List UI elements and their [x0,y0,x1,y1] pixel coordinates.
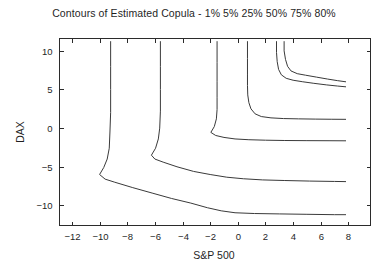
contour-line-5pct [151,42,345,182]
contour-line-25pct [211,42,346,141]
x-tick-label: 4 [291,231,296,242]
x-axis-ticks [73,39,349,226]
contour-line-80pct [284,42,346,82]
y-axis-ticks [60,52,371,206]
x-tick-label: 8 [346,231,351,242]
x-tick-label: −6 [150,231,161,242]
y-tick-label: 5 [47,84,52,95]
axes-rectangle [60,39,371,226]
x-axis-tick-labels: −12−10−8−6−4−202468 [64,231,351,242]
x-tick-label: 2 [263,231,268,242]
contour-lines [100,42,346,215]
x-tick-label: −2 [205,231,216,242]
x-tick-label: 0 [236,231,241,242]
y-axis-tick-labels: 1050−5−10 [36,46,52,211]
y-axis-title: DAX [14,121,26,143]
x-tick-label: 6 [319,231,324,242]
chart-figure: Contours of Estimated Copula - 1% 5% 25%… [0,0,388,272]
x-tick-label: −4 [178,231,189,242]
x-tick-label: −12 [64,231,80,242]
y-tick-label: −10 [36,200,52,211]
x-axis-title: S&P 500 [193,249,234,261]
contour-line-1pct [100,42,346,215]
y-tick-label: 0 [47,123,52,134]
x-tick-label: −8 [122,231,133,242]
y-tick-label: −5 [42,162,53,173]
plot-area: −12−10−8−6−4−202468 1050−5−10 S&P 500 DA… [0,0,388,272]
axes-frame [60,39,371,226]
y-tick-label: 10 [42,46,53,57]
x-tick-label: −10 [92,231,108,242]
